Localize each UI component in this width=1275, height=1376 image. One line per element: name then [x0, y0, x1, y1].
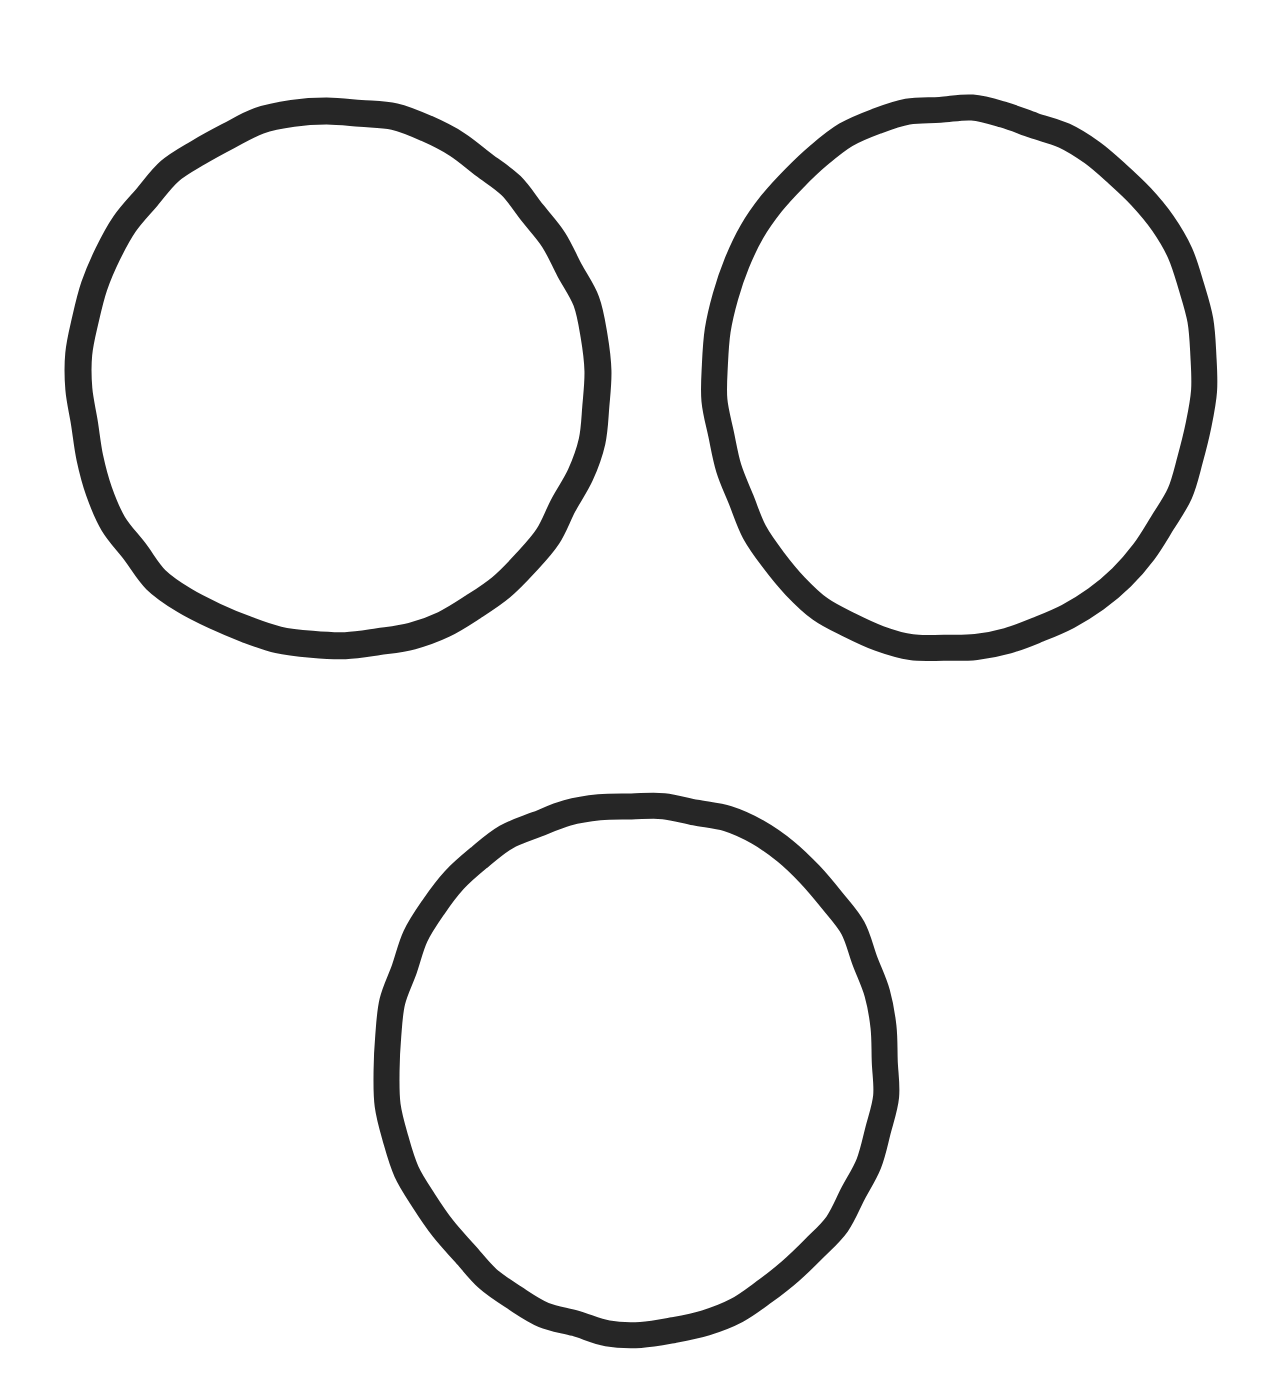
drawing-canvas [0, 0, 1275, 1376]
canvas-background [0, 0, 1275, 1376]
three-circles-figure [0, 0, 1275, 1376]
